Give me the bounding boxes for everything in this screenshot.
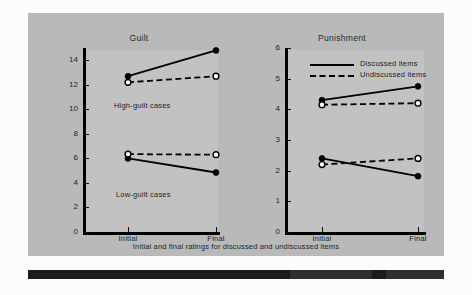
data-point-open-circle-icon xyxy=(415,156,421,162)
data-point-open-circle-icon xyxy=(319,102,325,108)
series-line xyxy=(128,158,216,172)
data-point-open-circle-icon xyxy=(319,162,325,168)
series-group-punishment xyxy=(236,13,444,256)
data-point-filled-circle-icon xyxy=(125,73,131,79)
data-point-open-circle-icon xyxy=(213,152,219,158)
data-point-open-circle-icon xyxy=(213,73,219,79)
data-point-open-circle-icon xyxy=(125,79,131,85)
legend-label-discussed: Discussed items xyxy=(360,59,418,68)
data-point-open-circle-icon xyxy=(125,151,131,157)
data-point-filled-circle-icon xyxy=(415,83,421,89)
series-line xyxy=(128,76,216,82)
bottom-rule xyxy=(28,270,444,279)
chart-panel-punishment: Punishment 0123456 InitialFinal Discusse… xyxy=(236,13,444,256)
series-group-guilt xyxy=(28,13,236,256)
annotation-low-guilt: Low-guilt cases xyxy=(116,190,171,199)
series-line xyxy=(128,154,216,155)
legend-swatch-dashed-line-icon xyxy=(310,75,354,77)
annotation-high-guilt: High-guilt cases xyxy=(114,101,171,110)
series-line xyxy=(128,50,216,76)
legend-label-undiscussed: Undiscussed items xyxy=(360,70,426,79)
legend-swatch-solid-line-icon xyxy=(310,64,354,66)
data-point-filled-circle-icon xyxy=(213,170,219,176)
data-point-filled-circle-icon xyxy=(213,48,219,54)
series-line xyxy=(322,86,418,100)
data-point-open-circle-icon xyxy=(415,100,421,106)
data-point-filled-circle-icon xyxy=(415,173,421,179)
figure-plate: Guilt 02468101214 InitialFinal High-guil… xyxy=(28,13,444,256)
figure-caption: Initial and final ratings for discussed … xyxy=(28,242,444,251)
data-point-filled-circle-icon xyxy=(319,156,325,162)
series-line xyxy=(322,103,418,105)
chart-panel-guilt: Guilt 02468101214 InitialFinal High-guil… xyxy=(28,13,236,256)
